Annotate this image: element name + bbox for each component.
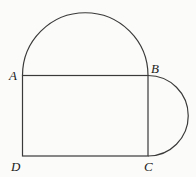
vertex-label-b: B <box>151 61 159 76</box>
rectangle-abcd <box>23 76 149 157</box>
semicircle-bc <box>148 76 188 157</box>
vertex-label-c: C <box>144 159 153 174</box>
vertex-label-d: D <box>10 159 21 174</box>
semicircle-ab <box>23 13 149 76</box>
vertex-label-a: A <box>8 68 17 83</box>
geometry-diagram: A B C D <box>0 0 196 177</box>
